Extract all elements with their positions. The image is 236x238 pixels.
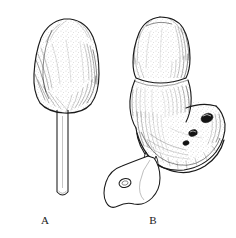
- figure-plate: A B: [0, 0, 236, 238]
- panel-label-b: B: [143, 215, 163, 226]
- specimen-b-mid-lobe-fill: [130, 80, 191, 126]
- panel-label-a: A: [35, 215, 55, 226]
- illustration-canvas: [0, 0, 236, 238]
